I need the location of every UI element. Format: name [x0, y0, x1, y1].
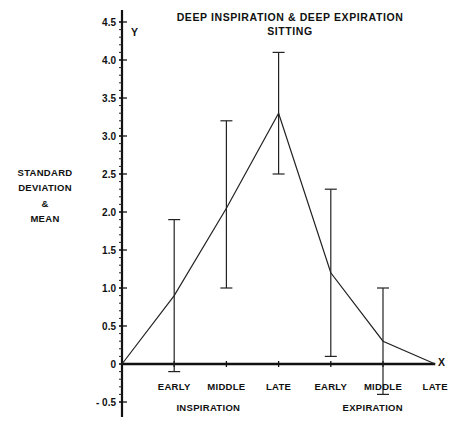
- x-group-label: INSPIRATION: [176, 402, 240, 413]
- chart-subtitle: SITTING: [267, 25, 313, 37]
- y-tick-label: 4.5: [102, 17, 116, 28]
- chart-title: DEEP INSPIRATION & DEEP EXPIRATION: [177, 11, 404, 23]
- x-axis-letter: X: [438, 356, 446, 368]
- error-bars: [168, 52, 389, 394]
- x-group-label: EXPIRATION: [343, 402, 403, 413]
- x-category-label: LATE: [266, 381, 291, 392]
- y-label-line-3: &: [41, 198, 48, 209]
- y-tick-label: 1.5: [102, 245, 116, 256]
- y-tick-label: 0.5: [102, 321, 116, 332]
- y-label-line-1: STANDARD: [18, 167, 73, 178]
- y-tick-label: 4.0: [102, 55, 116, 66]
- y-tick-label: 2.5: [102, 169, 116, 180]
- y-axis-letter: Y: [131, 26, 139, 38]
- y-tick-label: 3.0: [102, 131, 116, 142]
- y-label-line-4: MEAN: [30, 213, 59, 224]
- y-tick-label: 3.5: [102, 93, 116, 104]
- x-group-labels: INSPIRATIONEXPIRATION: [176, 402, 403, 413]
- x-category-label: MIDDLE: [364, 381, 402, 392]
- x-category-labels: EARLYMIDDLELATEEARLYMIDDLELATE: [158, 381, 448, 392]
- y-label-line-2: DEVIATION: [18, 182, 72, 193]
- x-category-label: LATE: [423, 381, 448, 392]
- y-tick-label: 2.0: [102, 207, 116, 218]
- chart: - 0.500.51.01.52.02.53.03.54.04.5 DEEP I…: [0, 0, 460, 427]
- x-category-label: MIDDLE: [207, 381, 245, 392]
- y-tick-label: 1.0: [102, 283, 116, 294]
- y-tick-label: - 0.5: [96, 397, 116, 408]
- x-category-label: EARLY: [158, 381, 191, 392]
- y-tick-label: 0: [110, 359, 116, 370]
- x-category-label: EARLY: [314, 381, 347, 392]
